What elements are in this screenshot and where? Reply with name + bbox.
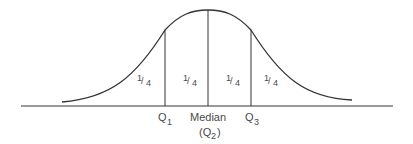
svg-text:3: 3 [254, 117, 259, 127]
median-label: Median (Q 2 ) [190, 111, 226, 141]
region-4-label: 1 / 4 [264, 73, 278, 88]
svg-text:1: 1 [167, 117, 172, 127]
svg-text:Median: Median [190, 111, 226, 123]
svg-text:4: 4 [273, 78, 278, 88]
svg-text:4: 4 [192, 78, 197, 88]
svg-text:2: 2 [211, 131, 216, 141]
svg-text:/: / [141, 76, 144, 86]
bell-curve [62, 10, 352, 102]
svg-text:/: / [230, 76, 233, 86]
region-2-label: 1 / 4 [183, 73, 197, 88]
svg-text:4: 4 [235, 78, 240, 88]
svg-text:(Q: (Q [199, 126, 212, 138]
svg-text:Q: Q [158, 111, 167, 123]
svg-text:/: / [187, 76, 190, 86]
q3-label: Q 3 [245, 111, 259, 127]
svg-text:Q: Q [245, 111, 254, 123]
q1-label: Q 1 [158, 111, 172, 127]
svg-text:/: / [268, 76, 271, 86]
region-1-label: 1 / 4 [137, 73, 151, 88]
region-3-label: 1 / 4 [226, 73, 240, 88]
svg-text:4: 4 [146, 78, 151, 88]
svg-text:): ) [217, 126, 221, 138]
normal-curve-diagram: 1 / 4 1 / 4 1 / 4 1 / 4 Q 1 Median (Q 2 … [0, 0, 413, 144]
